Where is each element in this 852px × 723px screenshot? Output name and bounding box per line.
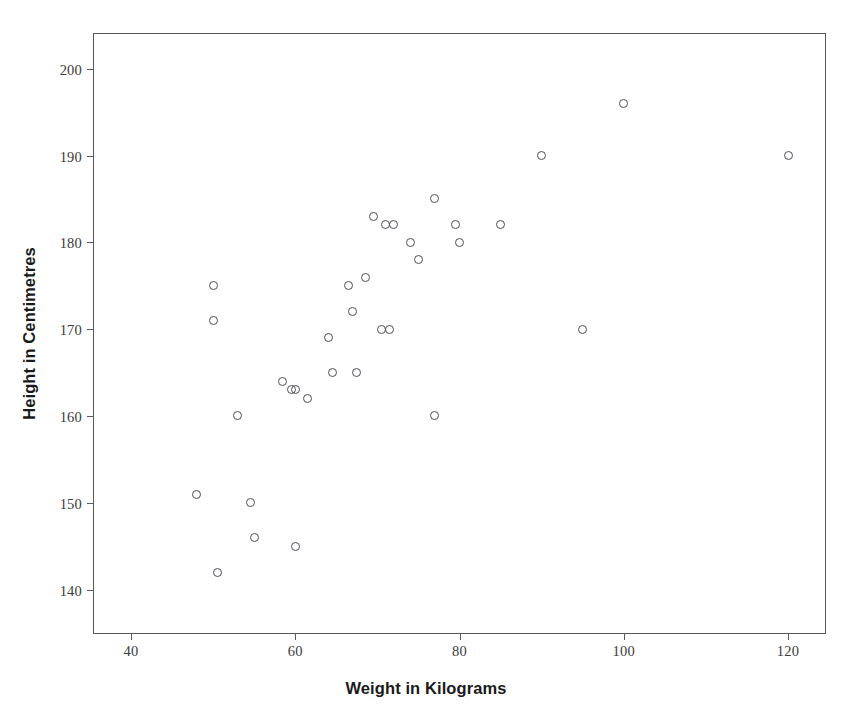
data-point-marker [213, 568, 222, 577]
data-point-marker [451, 220, 460, 229]
y-axis-tick: 150 [87, 503, 94, 504]
data-point-marker [578, 325, 587, 334]
data-point-marker [430, 194, 439, 203]
data-point-marker [406, 238, 415, 247]
data-point-marker [619, 99, 628, 108]
data-point-marker [361, 273, 370, 282]
x-axis-tick [295, 633, 296, 640]
y-axis-tick-label: 170 [60, 322, 82, 339]
y-axis-tick-label: 140 [60, 582, 82, 599]
y-axis-label: Height in Centimetres [20, 247, 39, 420]
x-axis-tick [131, 633, 132, 640]
data-point-marker [209, 281, 218, 290]
data-point-marker [291, 542, 300, 551]
data-point-marker [246, 498, 255, 507]
x-axis-label: Weight in Kilograms [0, 679, 852, 698]
data-point-marker [328, 368, 337, 377]
data-point-marker [496, 220, 505, 229]
data-point-marker [414, 255, 423, 264]
data-point-marker [192, 490, 201, 499]
plot-frame: 140150160170180190200406080100120 [93, 33, 826, 634]
scatter-plot-figure: Height in Centimetres 140150160170180190… [0, 0, 852, 723]
data-point-marker [784, 151, 793, 160]
data-point-marker [455, 238, 464, 247]
data-point-marker [537, 151, 546, 160]
y-axis-tick: 160 [87, 416, 94, 417]
data-point-marker [209, 316, 218, 325]
data-point-marker [278, 377, 287, 386]
data-point-marker [369, 212, 378, 221]
plot-area [94, 34, 825, 633]
y-axis-tick-label: 180 [60, 235, 82, 252]
data-point-marker [233, 411, 242, 420]
x-axis-tick-label: 80 [452, 643, 467, 660]
y-axis-tick: 140 [87, 590, 94, 591]
y-axis-tick: 180 [87, 242, 94, 243]
y-axis-tick-label: 190 [60, 148, 82, 165]
data-point-marker [389, 220, 398, 229]
data-point-marker [344, 281, 353, 290]
data-point-marker [385, 325, 394, 334]
data-point-marker [303, 394, 312, 403]
x-axis-tick [788, 633, 789, 640]
y-axis-tick: 170 [87, 329, 94, 330]
y-axis-tick-label: 160 [60, 408, 82, 425]
y-axis-tick-label: 150 [60, 495, 82, 512]
y-axis-label-container: Height in Centimetres [12, 33, 46, 634]
data-point-marker [291, 385, 300, 394]
x-axis-tick-label: 120 [777, 643, 799, 660]
data-point-marker [324, 333, 333, 342]
data-point-marker [430, 411, 439, 420]
y-axis-tick-label: 200 [60, 61, 82, 78]
data-point-marker [352, 368, 361, 377]
data-point-marker [348, 307, 357, 316]
x-axis-tick-label: 40 [124, 643, 139, 660]
y-axis-tick: 200 [87, 69, 94, 70]
y-axis-tick: 190 [87, 156, 94, 157]
x-axis-tick [460, 633, 461, 640]
data-point-marker [250, 533, 259, 542]
x-axis-tick-label: 100 [613, 643, 635, 660]
x-axis-tick [624, 633, 625, 640]
x-axis-tick-label: 60 [288, 643, 303, 660]
